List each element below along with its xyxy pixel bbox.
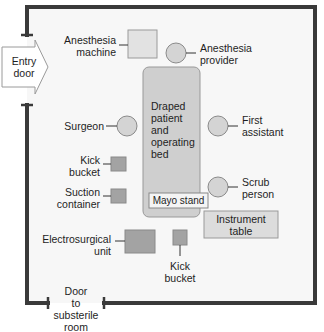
suction-container-label: Suction container [40, 186, 100, 210]
kick-bucket-1 [111, 157, 126, 171]
instrument-table-label: Instrument table [204, 213, 278, 237]
mayo-stand-label: Mayo stand [149, 195, 208, 207]
surgeon-label: Surgeon [40, 120, 104, 132]
scrub-person-icon [208, 177, 228, 197]
first-assistant-icon [208, 116, 228, 136]
first-assistant-label: First assistant [242, 114, 283, 138]
electrosurgical-unit [125, 230, 155, 253]
anesthesia-machine-label: Anesthesia machine [58, 34, 116, 58]
surgeon-icon [117, 116, 137, 136]
operating-bed-label: Draped patient and operating bed [151, 100, 195, 160]
anesthesia-machine [128, 30, 157, 58]
substerile-door-label: Door to substerile room [46, 285, 106, 332]
anesthesia-provider-icon [166, 43, 186, 63]
suction-container [111, 189, 126, 203]
kick-bucket-2 [173, 230, 187, 245]
scrub-person-label: Scrub person [242, 176, 274, 200]
entry-door-label: Entry door [6, 55, 42, 79]
kick-bucket-1-label: Kick bucket [50, 154, 100, 178]
anesthesia-provider-label: Anesthesia provider [200, 42, 252, 66]
kick-bucket-2-label: Kick bucket [150, 260, 210, 284]
electrosurgical-unit-label: Electrosurgical unit [30, 233, 111, 257]
